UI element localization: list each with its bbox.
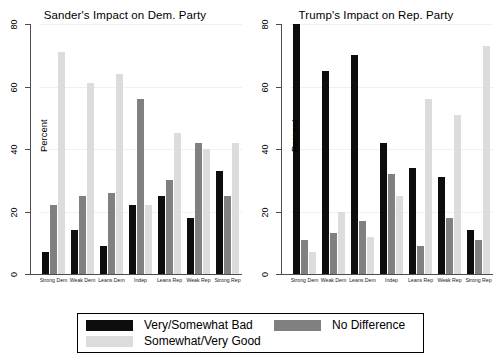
bar [87,83,94,274]
chart-legend: Very/Somewhat Bad Somewhat/Very Good No … [77,313,424,353]
x-axis-labels-right: Strong DemWeak DemLeans DemIndepLeans Re… [290,277,493,289]
y-tick-label-right: 80 [261,16,270,34]
bar [380,143,387,274]
bar [425,99,432,274]
y-tick-right [276,274,281,275]
legend-label-nodifference: No Difference [332,319,405,332]
bar [224,196,231,274]
bar [116,74,123,274]
bar [58,52,65,274]
bar [359,221,366,274]
figure-root: Sander's Impact on Dem. Party 020406080 … [0,0,501,362]
y-tick-label-right: 60 [261,78,270,96]
x-axis-label: Strong Rep [461,277,496,284]
bar [187,218,194,274]
bar [145,205,152,274]
chart-title-trump: Trump's Impact on Rep. Party [251,9,501,21]
bar [396,196,403,274]
bar [137,99,144,274]
chart-panel-trump: Trump's Impact on Rep. Party 020406080 P… [251,0,501,300]
x-axis-line-right [281,274,493,275]
y-tick-label-right: 0 [261,266,270,284]
chart-title-sanders: Sander's Impact on Dem. Party [0,9,250,21]
bar [79,196,86,274]
bar [174,133,181,274]
bar [309,252,316,274]
legend-entry-good: Somewhat/Very Good [86,335,261,348]
bar [232,143,239,274]
bar [195,143,202,274]
bar [351,55,358,274]
y-tick-left [25,149,30,150]
y-tick-left [25,24,30,25]
bar-group-container-right [290,24,493,274]
bar [158,196,165,274]
bar [322,71,329,274]
bar [129,205,136,274]
bar [446,218,453,274]
x-axis-label: Strong Rep [210,277,245,284]
plot-area-trump: 020406080 Percent [290,24,493,274]
bar [330,233,337,274]
bar [71,230,78,274]
y-tick-left [25,274,30,275]
bar [338,212,345,275]
y-tick-left [25,212,30,213]
legend-entry-bad: Very/Somewhat Bad [86,319,253,332]
y-tick-label-left: 40 [10,141,19,159]
bar [216,171,223,274]
bar [483,46,490,274]
legend-label-bad: Very/Somewhat Bad [144,319,253,332]
bar [108,193,115,274]
bar [367,237,374,275]
bar [203,149,210,274]
bar [409,168,416,274]
chart-panel-sanders: Sander's Impact on Dem. Party 020406080 … [0,0,250,300]
bar [388,174,395,274]
bar [475,240,482,274]
x-axis-line-left [30,274,242,275]
legend-entry-nodifference: No Difference [274,319,405,332]
bar [50,205,57,274]
y-axis-line-right [281,24,282,274]
y-tick-right [276,212,281,213]
y-tick-right [276,87,281,88]
y-axis-title-left: Percent [38,119,49,152]
y-tick-label-left: 80 [10,16,19,34]
x-axis-labels-left: Strong DemWeak DemLeans DemIndepLeans Re… [39,277,242,289]
y-tick-label-left: 60 [10,78,19,96]
y-tick-label-left: 0 [10,266,19,284]
y-tick-label-right: 40 [261,141,270,159]
bar [42,252,49,274]
legend-swatch-bad [86,320,133,331]
legend-swatch-good [86,336,133,347]
y-tick-left [25,87,30,88]
bar-group-container-left [39,24,242,274]
y-axis-title-right: Percent [289,119,300,152]
y-tick-right [276,24,281,25]
y-tick-label-right: 20 [261,203,270,221]
bar [454,115,461,274]
y-axis-line-left [30,24,31,274]
y-tick-label-left: 20 [10,203,19,221]
y-tick-right [276,149,281,150]
bar [301,240,308,274]
legend-swatch-nodifference [274,320,321,331]
bar [166,180,173,274]
legend-label-good: Somewhat/Very Good [144,335,261,348]
bar [417,246,424,274]
bar [100,246,107,274]
plot-area-sanders: 020406080 Percent [39,24,242,274]
bar [438,177,445,274]
bar [467,230,474,274]
